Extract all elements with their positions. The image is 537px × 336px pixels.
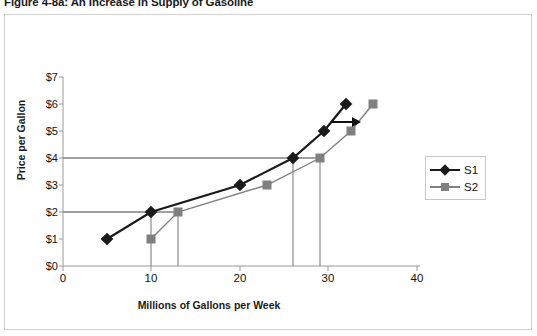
series-line-s2: [151, 104, 373, 239]
y-tick-label: $3: [28, 179, 58, 191]
x-axis-ticks: [63, 266, 417, 271]
y-axis-title: Price per Gallon: [15, 80, 27, 200]
legend-label-s1: S1: [464, 164, 478, 176]
x-tick-label: 10: [131, 272, 171, 284]
series-line-s1: [107, 104, 346, 239]
y-tick-label: $1: [28, 233, 58, 245]
legend-label-s2: S2: [464, 181, 478, 193]
x-tick-label: 20: [220, 272, 260, 284]
y-tick-label: $6: [28, 98, 58, 110]
chart-legend: S1 S2: [425, 156, 486, 200]
y-tick-label: $2: [28, 206, 58, 218]
x-tick-label: 40: [397, 272, 437, 284]
legend-key-square-icon: [430, 181, 460, 193]
y-tick-label: $7: [28, 71, 58, 83]
x-tick-label: 0: [43, 272, 83, 284]
series-markers-s1: [101, 98, 353, 246]
x-tick-label: 30: [308, 272, 348, 284]
y-tick-label: $5: [28, 125, 58, 137]
legend-item-s2[interactable]: S2: [430, 178, 478, 195]
legend-item-s1[interactable]: S1: [430, 161, 478, 178]
y-tick-label: $4: [28, 152, 58, 164]
y-tick-label: $0: [28, 260, 58, 272]
chart-plot-area: $7 $6 $5 $4 $3 $2 $1 $0 0 10 20 30 40: [0, 0, 537, 336]
x-axis-tick-labels: 0 10 20 30 40: [0, 272, 537, 292]
legend-key-diamond-icon: [430, 164, 460, 176]
x-axis-title: Millions of Gallons per Week: [63, 299, 355, 311]
y-axis-ticks: [59, 77, 63, 266]
